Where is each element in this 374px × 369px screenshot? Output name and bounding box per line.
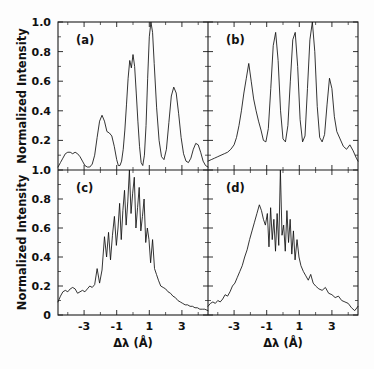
y-tick-label-bottom-3: 0.4 — [32, 251, 52, 264]
figure-svg: 1.00.80.60.40.21.00.80.60.40.20-3-113Δλ … — [0, 0, 374, 369]
panel-label-b: (b) — [226, 33, 245, 47]
x-tick-label-c-3: 3 — [178, 320, 186, 333]
y-tick-label-top-1: 0.8 — [32, 46, 52, 59]
x-tick-label-c-1: -1 — [111, 320, 123, 333]
y-tick-label-bottom-4: 0.2 — [32, 280, 52, 293]
panel-label-d: (d) — [226, 181, 245, 195]
x-tick-label-c-0: -3 — [78, 320, 90, 333]
x-axis-title-d: Δλ (Å) — [263, 335, 303, 350]
x-tick-label-d-3: 3 — [328, 320, 336, 333]
y-tick-label-top-4: 0.2 — [32, 134, 52, 147]
y-axis-title-bottom: Normalized Intensity — [15, 174, 29, 310]
y-tick-label-top-2: 0.6 — [32, 75, 52, 88]
panel-label-c: (c) — [76, 181, 93, 195]
y-tick-label-bottom-0: 1.0 — [32, 164, 52, 177]
figure-container: 1.00.80.60.40.21.00.80.60.40.20-3-113Δλ … — [0, 0, 374, 369]
y-tick-label-bottom-2: 0.6 — [32, 222, 52, 235]
x-axis-title-c: Δλ (Å) — [113, 335, 153, 350]
y-tick-label-top-0: 1.0 — [32, 16, 52, 29]
y-tick-label-bottom-5: 0 — [43, 309, 51, 322]
x-tick-label-d-0: -3 — [228, 320, 240, 333]
x-tick-label-d-2: 1 — [295, 320, 303, 333]
y-tick-label-top-3: 0.4 — [32, 105, 52, 118]
y-axis-title-top: Normalized Intensity — [15, 28, 29, 164]
panel-label-a: (a) — [76, 33, 94, 47]
x-tick-label-d-1: -1 — [261, 320, 273, 333]
x-tick-label-c-2: 1 — [145, 320, 153, 333]
y-tick-label-bottom-1: 0.8 — [32, 193, 52, 206]
